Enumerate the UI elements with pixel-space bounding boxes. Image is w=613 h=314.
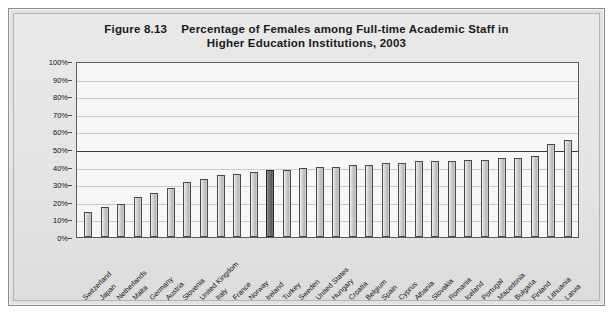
y-axis-tick-mark	[68, 62, 72, 63]
bar[interactable]	[283, 170, 291, 237]
chart-title-line1: Percentage of Females among Full-time Ac…	[181, 23, 509, 35]
bar-slot	[559, 63, 576, 237]
bar[interactable]	[514, 158, 522, 237]
bar[interactable]	[167, 188, 175, 237]
bar-slot	[444, 63, 461, 237]
y-axis-tick-mark	[68, 150, 72, 151]
bar-slot	[510, 63, 527, 237]
y-axis-tick-mark	[68, 203, 72, 204]
y-axis-tick-mark	[68, 115, 72, 116]
y-axis-tick-mark	[68, 80, 72, 81]
y-axis-tick-label: 30%	[53, 181, 68, 190]
y-axis-tick-mark	[68, 132, 72, 133]
bar-slot	[526, 63, 543, 237]
bar[interactable]	[332, 167, 340, 237]
bar[interactable]	[134, 197, 142, 237]
bar-slot	[378, 63, 395, 237]
bar-slot	[130, 63, 147, 237]
x-axis: SwitzerlandJapanNetherlandsMaltaGermanyA…	[76, 240, 579, 302]
y-axis-tick-label: 0%	[57, 234, 68, 243]
y-axis-tick-label: 100%	[49, 58, 68, 67]
plot-area	[76, 62, 579, 238]
bar[interactable]	[349, 165, 357, 237]
bar[interactable]	[299, 168, 307, 237]
y-axis-tick-label: 10%	[53, 216, 68, 225]
bar[interactable]	[531, 156, 539, 237]
y-axis-tick-mark	[68, 97, 72, 98]
bar[interactable]	[415, 161, 423, 237]
bar[interactable]	[266, 170, 274, 237]
bar[interactable]	[382, 163, 390, 237]
bar-slot	[196, 63, 213, 237]
y-axis-tick-label: 80%	[53, 93, 68, 102]
bar-series	[77, 63, 578, 237]
bar[interactable]	[448, 161, 456, 237]
bar-slot	[163, 63, 180, 237]
bar-slot	[97, 63, 114, 237]
bar-slot	[295, 63, 312, 237]
bar[interactable]	[365, 165, 373, 237]
bar-slot	[345, 63, 362, 237]
y-axis-tick-mark	[68, 185, 72, 186]
bar[interactable]	[84, 212, 92, 237]
chart-title: Figure 8.13Percentage of Females among F…	[14, 22, 599, 50]
bar-slot	[460, 63, 477, 237]
bar[interactable]	[250, 172, 258, 237]
figure-frame: Figure 8.13Percentage of Females among F…	[8, 8, 605, 306]
y-axis-tick-label: 20%	[53, 198, 68, 207]
bar[interactable]	[316, 167, 324, 237]
bar[interactable]	[217, 175, 225, 237]
bar-slot	[229, 63, 246, 237]
bar-slot	[427, 63, 444, 237]
bar-slot	[328, 63, 345, 237]
bar[interactable]	[200, 179, 208, 237]
bar-slot	[394, 63, 411, 237]
bar[interactable]	[117, 204, 125, 237]
y-axis-tick-mark	[68, 168, 72, 169]
bar-slot	[361, 63, 378, 237]
chart-title-line2: Higher Education Institutions, 2003	[14, 36, 599, 50]
bar-slot	[212, 63, 229, 237]
y-axis-tick-mark	[68, 238, 72, 239]
bar-slot	[477, 63, 494, 237]
y-axis-tick-label: 90%	[53, 75, 68, 84]
bar[interactable]	[398, 163, 406, 237]
bar[interactable]	[564, 140, 572, 237]
y-axis-tick-label: 50%	[53, 146, 68, 155]
figure-number: Figure 8.13	[104, 23, 167, 35]
bar[interactable]	[498, 158, 506, 237]
y-axis-tick-label: 60%	[53, 128, 68, 137]
bar-slot	[278, 63, 295, 237]
bar-slot	[179, 63, 196, 237]
y-axis-tick-mark	[68, 220, 72, 221]
bar[interactable]	[431, 161, 439, 237]
bar[interactable]	[233, 174, 241, 237]
bar[interactable]	[464, 160, 472, 237]
y-axis: 100%90%80%70%60%50%40%30%20%10%0%	[14, 62, 72, 238]
bar[interactable]	[547, 144, 555, 237]
bar-slot	[311, 63, 328, 237]
y-axis-tick-label: 70%	[53, 110, 68, 119]
y-axis-tick-label: 40%	[53, 163, 68, 172]
figure-panel: Figure 8.13Percentage of Females among F…	[13, 13, 600, 301]
bar-slot	[80, 63, 97, 237]
bar[interactable]	[481, 160, 489, 237]
bar[interactable]	[101, 207, 109, 237]
bar[interactable]	[150, 193, 158, 237]
bar-slot	[262, 63, 279, 237]
bar-slot	[493, 63, 510, 237]
bar-slot	[543, 63, 560, 237]
bar-slot	[245, 63, 262, 237]
bar-slot	[146, 63, 163, 237]
bar[interactable]	[183, 182, 191, 237]
bar-slot	[411, 63, 428, 237]
bar-slot	[113, 63, 130, 237]
